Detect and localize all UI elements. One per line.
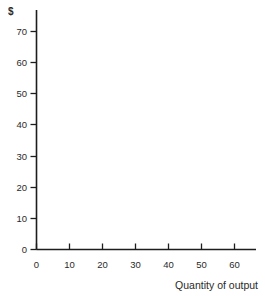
y-tick-label-10: 10 (16, 213, 27, 224)
x-tick-label-60: 60 (229, 259, 240, 270)
plot-area (37, 10, 256, 249)
y-tick-label-30: 30 (16, 151, 27, 162)
x-tick-label-10: 10 (64, 259, 75, 270)
x-axis-title: Quantity of output (175, 279, 258, 291)
x-tick-label-30: 30 (130, 259, 141, 270)
chart-container: $ 70 60 50 40 30 20 10 0 (0, 0, 265, 296)
y-tick-label-60: 60 (16, 57, 27, 68)
x-tick-label-40: 40 (163, 259, 174, 270)
x-tick-label-50: 50 (196, 259, 207, 270)
chart-canvas: $ 70 60 50 40 30 20 10 0 (0, 0, 265, 296)
x-tick-label-0: 0 (34, 259, 39, 270)
y-tick-label-50: 50 (16, 88, 27, 99)
y-axis-title: $ (8, 6, 14, 17)
x-tick-label-20: 20 (97, 259, 108, 270)
y-tick-label-0: 0 (22, 244, 27, 255)
y-tick-label-40: 40 (16, 119, 27, 130)
y-tick-label-20: 20 (16, 182, 27, 193)
y-tick-label-70: 70 (16, 26, 27, 37)
